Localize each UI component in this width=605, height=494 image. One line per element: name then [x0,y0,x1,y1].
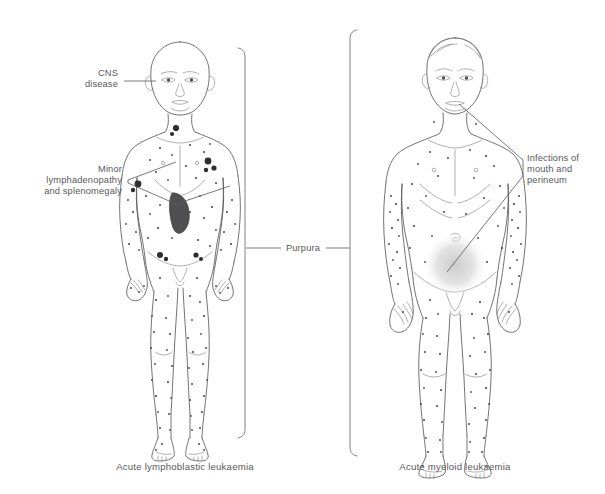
annotation-purpura-line-0: Purpura [286,243,321,253]
leader-lymph-spleen-2 [176,186,230,204]
annotation-lymph-line-0: Minor [98,164,122,174]
spleen-marking [169,193,189,234]
annotation-lymph-line-2: and splenomegaly [44,186,122,196]
bracket-left [238,48,245,438]
annotation-cns-line-0: CNS [98,68,118,78]
leader-lymph-spleen [128,183,176,204]
figure-right-adult [384,38,527,478]
annotation-infections-line-2: perineum [527,175,567,185]
annotation-cns-line-1: disease [85,79,118,89]
leader-lymph-node [128,162,176,180]
caption-left-figure: Acute lymphoblastic leukaemia [116,461,254,472]
annotation-cns: CNS disease [85,68,118,89]
annotation-infections-line-1: mouth and [527,164,572,174]
child-head [145,42,214,115]
caption-right-figure: Acute myeloid leukaemia [399,461,511,472]
annotation-lymph-line-1: lymphadenopathy [46,175,122,185]
annotation-lymphadenopathy: Minor lymphadenopathy and splenomegaly [44,164,122,196]
perineal-infection-shading [422,231,488,299]
child-torso [120,114,241,461]
figure-left-child [120,42,241,461]
leukaemia-comparison-diagram: CNS disease Minor lymphadenopathy and sp… [0,0,605,494]
annotation-infections: Infections of mouth and perineum [527,153,579,185]
leader-infection-mouth [459,104,523,160]
adult-head [422,38,487,114]
annotation-purpura: Purpura [286,243,321,253]
bracket-right [350,30,357,456]
annotation-infections-line-0: Infections of [527,153,579,163]
